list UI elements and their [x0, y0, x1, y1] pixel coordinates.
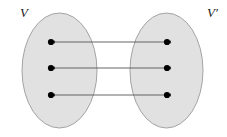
set-mapping-diagram: V V′ — [0, 0, 227, 137]
codomain-set-label: V′ — [207, 5, 218, 20]
node-v1 — [48, 39, 54, 45]
node-v2-prime — [164, 65, 170, 71]
node-v2 — [48, 65, 54, 71]
node-v1-prime — [164, 39, 170, 45]
diagram-canvas: V V′ — [0, 0, 227, 137]
node-v3-prime — [164, 92, 170, 98]
domain-set-label: V — [20, 5, 30, 20]
domain-set-ellipse — [22, 13, 97, 128]
node-v3 — [48, 92, 54, 98]
